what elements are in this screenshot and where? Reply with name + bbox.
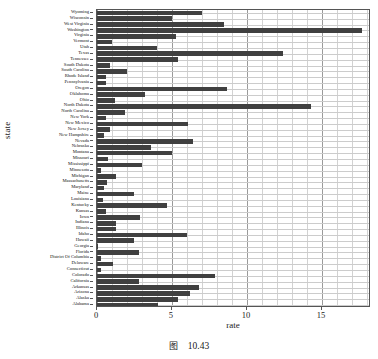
y-axis-tick-mark bbox=[90, 263, 93, 264]
y-axis-tick-mark bbox=[90, 65, 93, 66]
bar bbox=[97, 87, 227, 92]
y-axis-tick-mark bbox=[90, 24, 93, 25]
bar bbox=[97, 116, 106, 121]
y-axis-tick-label: Alabama bbox=[72, 301, 89, 307]
bar bbox=[97, 279, 139, 284]
bar bbox=[97, 22, 224, 27]
figure-caption: 图10.43 bbox=[0, 339, 378, 352]
bar bbox=[97, 250, 139, 255]
bar bbox=[97, 69, 127, 74]
bar bbox=[97, 233, 187, 238]
y-axis-tick-mark bbox=[90, 59, 93, 60]
y-axis-tick-mark bbox=[90, 111, 93, 112]
y-axis-tick-mark bbox=[90, 211, 93, 212]
y-axis-tick-labels: WyomingWisconsinWest VirginiaWashingtonV… bbox=[0, 9, 93, 307]
bar bbox=[97, 291, 190, 296]
figure-container: state WyomingWisconsinWest VirginiaWashi… bbox=[0, 0, 378, 359]
bar bbox=[97, 34, 176, 39]
y-axis-tick-mark bbox=[90, 70, 93, 71]
y-axis-tick-mark bbox=[90, 12, 93, 13]
y-axis-tick-mark bbox=[90, 187, 93, 188]
y-axis-tick-mark bbox=[90, 123, 93, 124]
bar bbox=[97, 127, 110, 132]
bar bbox=[97, 75, 106, 80]
y-axis-tick-mark bbox=[90, 76, 93, 77]
bar bbox=[97, 133, 104, 138]
x-axis-title: rate bbox=[96, 320, 370, 330]
bar bbox=[97, 174, 116, 179]
plot-area bbox=[96, 9, 370, 307]
bar bbox=[97, 192, 134, 197]
bar bbox=[97, 145, 151, 150]
y-axis-tick-mark bbox=[90, 298, 93, 299]
bar bbox=[97, 151, 172, 156]
caption-symbol: 图 bbox=[169, 341, 178, 351]
bar bbox=[97, 297, 178, 302]
bar bbox=[97, 285, 199, 290]
y-axis-tick-mark bbox=[90, 176, 93, 177]
bar bbox=[97, 256, 101, 261]
y-axis-tick-mark bbox=[90, 53, 93, 54]
caption-number: 10.43 bbox=[188, 341, 209, 351]
bar bbox=[97, 209, 106, 214]
y-axis-tick-mark bbox=[90, 47, 93, 48]
x-axis-tick-label: 0 bbox=[94, 310, 98, 320]
y-axis-tick-mark bbox=[90, 105, 93, 106]
bar bbox=[97, 139, 193, 144]
y-axis-tick-mark bbox=[90, 88, 93, 89]
y-axis-tick-mark bbox=[90, 304, 93, 305]
y-axis-tick-mark bbox=[90, 205, 93, 206]
bar bbox=[97, 57, 178, 62]
bar bbox=[97, 215, 140, 220]
x-axis-tick-label: 5 bbox=[169, 310, 173, 320]
y-axis-tick-mark bbox=[90, 29, 93, 30]
bar bbox=[97, 238, 134, 243]
bar bbox=[97, 16, 172, 21]
y-axis-tick-mark bbox=[90, 234, 93, 235]
y-axis-tick-mark bbox=[90, 269, 93, 270]
y-axis-tick-mark bbox=[90, 281, 93, 282]
y-axis-tick-mark bbox=[90, 257, 93, 258]
x-axis-tick-label: 15 bbox=[317, 310, 326, 320]
y-axis-tick-mark bbox=[90, 35, 93, 36]
y-axis-tick-mark bbox=[90, 216, 93, 217]
y-axis-tick-mark bbox=[90, 100, 93, 101]
y-axis-tick-mark bbox=[90, 158, 93, 159]
bar bbox=[97, 110, 125, 115]
bar bbox=[97, 203, 167, 208]
bar bbox=[97, 51, 283, 56]
y-axis-tick-mark bbox=[90, 140, 93, 141]
bar bbox=[97, 262, 113, 267]
y-axis-tick-mark bbox=[90, 94, 93, 95]
x-axis-tick-label: 10 bbox=[242, 310, 251, 320]
y-axis-tick-mark bbox=[90, 228, 93, 229]
y-axis-tick-mark bbox=[90, 152, 93, 153]
bar bbox=[97, 63, 110, 68]
bar bbox=[97, 157, 108, 162]
y-axis-tick-mark bbox=[90, 240, 93, 241]
bar bbox=[97, 227, 116, 232]
bar bbox=[97, 11, 202, 16]
bar bbox=[97, 180, 107, 185]
bar bbox=[97, 46, 157, 51]
bar bbox=[97, 268, 101, 273]
y-axis-tick-mark bbox=[90, 18, 93, 19]
y-axis-tick-mark bbox=[90, 222, 93, 223]
bar bbox=[97, 81, 106, 86]
bar bbox=[97, 186, 104, 191]
y-axis-tick-mark bbox=[90, 41, 93, 42]
y-axis-tick-mark bbox=[90, 199, 93, 200]
y-axis-tick-mark bbox=[90, 181, 93, 182]
y-axis-tick-mark bbox=[90, 117, 93, 118]
y-axis-tick-mark bbox=[90, 170, 93, 171]
bar bbox=[97, 28, 362, 33]
y-axis-tick-mark bbox=[90, 287, 93, 288]
y-axis-tick-mark bbox=[90, 82, 93, 83]
bar bbox=[97, 40, 112, 45]
y-axis-tick-mark bbox=[90, 246, 93, 247]
y-axis-tick-mark bbox=[90, 251, 93, 252]
y-axis-tick-mark bbox=[90, 129, 93, 130]
bar bbox=[97, 274, 215, 279]
y-axis-tick-mark bbox=[90, 193, 93, 194]
bar bbox=[97, 221, 116, 226]
